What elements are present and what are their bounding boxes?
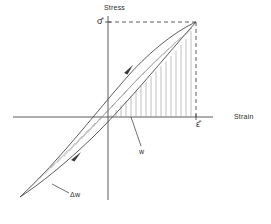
y-axis-title: Stress <box>104 4 125 11</box>
arrow-upper-branch-icon <box>124 65 133 75</box>
annotation-label-delta-w: Δw <box>70 191 80 198</box>
hatch-region-delta-w <box>28 28 193 190</box>
annotation-label-w: w <box>139 148 144 155</box>
x-axis-tick-label-epsilon-hat: ε̂ <box>196 120 200 129</box>
axes-group <box>13 16 213 200</box>
figure-canvas <box>0 0 271 224</box>
x-axis-title: Strain <box>234 113 254 120</box>
w-leader-line <box>131 117 141 146</box>
delta-w-leader-line <box>52 184 69 193</box>
stress-strain-figure: Stress Strain σ̂ ε̂ w Δw <box>0 0 271 224</box>
loop-direction-arrows <box>71 65 133 162</box>
y-axis-tick-label-sigma-hat: σ̂ <box>97 17 103 26</box>
